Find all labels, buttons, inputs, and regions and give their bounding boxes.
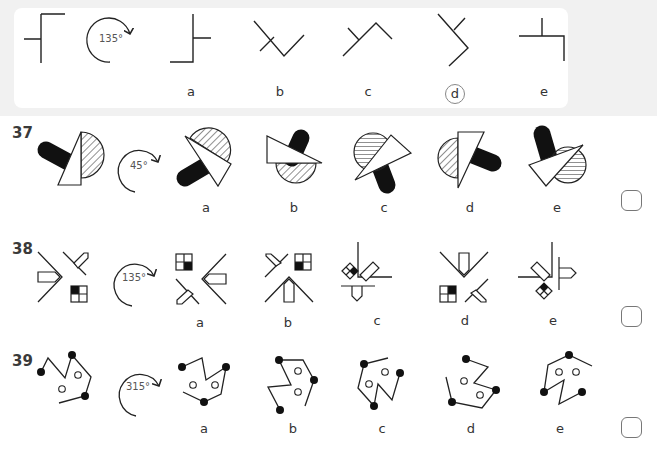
q38-option-e-label: e <box>543 313 563 328</box>
q39-option-a-figure <box>178 352 234 412</box>
question-37-number: 37 <box>12 124 33 142</box>
q37-option-b-label: b <box>284 200 304 215</box>
example-option-e-label: e <box>534 84 554 99</box>
q37-option-b-figure <box>265 128 335 198</box>
example-option-a-figure <box>168 12 218 67</box>
q39-option-c-figure <box>354 356 414 416</box>
q38-option-b-label: b <box>278 315 298 330</box>
q39-option-d-label: d <box>461 421 481 436</box>
q37-option-e-figure <box>527 130 597 200</box>
q38-option-e-figure <box>518 240 580 302</box>
q37-option-d-figure <box>438 130 508 200</box>
q37-option-e-label: e <box>547 200 567 215</box>
example-option-e-figure <box>517 16 567 62</box>
q38-option-a-label: a <box>190 315 210 330</box>
q37-option-a-label: a <box>196 200 216 215</box>
q38-target-figure <box>36 250 92 306</box>
q38-option-a-figure <box>174 252 230 308</box>
example-option-c-label: c <box>358 84 378 99</box>
q37-option-c-label: c <box>374 200 394 215</box>
example-option-d-figure <box>436 12 476 70</box>
example-option-c-figure <box>340 18 395 63</box>
example-option-d-label-selected: d <box>445 84 465 104</box>
q39-option-e-label: e <box>550 421 570 436</box>
q37-target-figure <box>34 130 104 200</box>
q39-option-d-figure <box>444 356 506 416</box>
q38-answer-checkbox[interactable] <box>621 306 642 327</box>
q37-option-c-figure <box>353 130 423 200</box>
example-option-b-label: b <box>270 84 290 99</box>
q38-option-d-label: d <box>455 313 475 328</box>
q38-option-c-label: c <box>367 313 387 328</box>
example-option-b-figure <box>252 18 307 63</box>
q39-option-e-figure <box>536 352 596 412</box>
q37-rotation-angle-label: 45° <box>130 160 148 171</box>
q39-target-figure <box>36 352 94 412</box>
q39-option-b-label: b <box>283 421 303 436</box>
q39-option-c-label: c <box>372 421 392 436</box>
q38-option-d-figure <box>438 250 494 306</box>
q38-option-c-figure <box>340 240 402 302</box>
q39-option-b-figure <box>265 355 325 415</box>
q39-rotation-angle-label: 315° <box>126 381 150 392</box>
example-target-figure <box>20 10 70 70</box>
question-39-number: 39 <box>12 352 33 370</box>
q38-rotation-angle-label: 135° <box>122 272 146 283</box>
question-38-number: 38 <box>12 240 33 258</box>
rotation-angle-label: 135° <box>99 33 123 44</box>
q37-option-d-label: d <box>460 200 480 215</box>
q37-answer-checkbox[interactable] <box>621 190 642 211</box>
q39-answer-checkbox[interactable] <box>621 417 642 438</box>
q38-option-b-figure <box>263 252 319 308</box>
example-option-a-label: a <box>181 84 201 99</box>
q39-option-a-label: a <box>194 421 214 436</box>
q39-clockwise-rotation-arrow-icon <box>114 364 170 420</box>
q37-option-a-figure <box>175 130 245 200</box>
